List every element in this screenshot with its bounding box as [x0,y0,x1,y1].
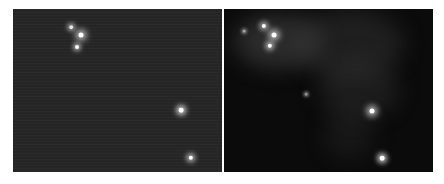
star [75,45,79,49]
star [69,25,73,29]
star [189,156,193,160]
star [272,33,277,38]
star [179,108,184,113]
nebula-glow [324,109,374,159]
raw-image-panel [13,9,222,172]
star [305,93,308,96]
star [243,30,246,33]
star [380,156,385,161]
nebula-glow [319,59,399,119]
star [370,109,375,114]
bottom-margin [0,175,444,184]
star [79,33,84,38]
processed-image-panel [224,9,433,172]
